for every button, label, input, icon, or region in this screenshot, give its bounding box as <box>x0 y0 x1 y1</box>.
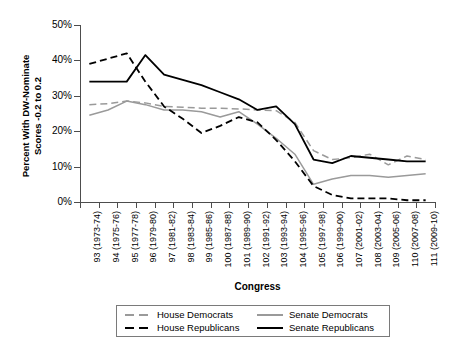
legend-item: House Democrats <box>121 309 253 320</box>
legend-swatch-icon <box>125 324 151 332</box>
legend-swatch-icon <box>257 324 283 332</box>
legend-item: Senate Democrats <box>253 309 385 320</box>
x-axis-category-labels: 93 (1973-74)94 (1975-76)95 (1977-78)96 (… <box>0 0 464 357</box>
legend-label: Senate Democrats <box>289 309 368 320</box>
legend-swatch-icon <box>257 311 283 319</box>
legend-label: Senate Republicans <box>289 322 374 333</box>
legend-label: House Democrats <box>157 309 233 320</box>
legend-label: House Republicans <box>157 322 239 333</box>
legend-item: House Republicans <box>121 322 253 333</box>
chart-legend: House DemocratsSenate DemocratsHouse Rep… <box>116 305 390 337</box>
x-axis-title: Congress <box>80 281 435 292</box>
legend-swatch-icon <box>125 311 151 319</box>
legend-item: Senate Republicans <box>253 322 385 333</box>
